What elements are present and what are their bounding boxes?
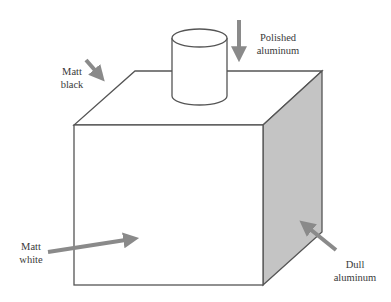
label-matt-black-line2: black <box>52 78 92 91</box>
label-polished-aluminum-line2: aluminum <box>250 44 306 57</box>
label-dull-aluminum-line2: aluminum <box>326 271 384 284</box>
label-polished-aluminum: Polished aluminum <box>250 31 306 57</box>
box-diagram <box>0 0 391 302</box>
label-matt-white-line2: white <box>12 253 50 266</box>
box-front-face <box>74 125 263 285</box>
label-matt-white: Matt white <box>12 240 50 266</box>
label-matt-black: Matt black <box>52 65 92 91</box>
label-matt-white-line1: Matt <box>12 240 50 253</box>
label-matt-black-line1: Matt <box>52 65 92 78</box>
label-polished-aluminum-line1: Polished <box>250 31 306 44</box>
label-dull-aluminum: Dull aluminum <box>326 258 384 284</box>
cylinder <box>172 29 227 105</box>
label-dull-aluminum-line1: Dull <box>326 258 384 271</box>
